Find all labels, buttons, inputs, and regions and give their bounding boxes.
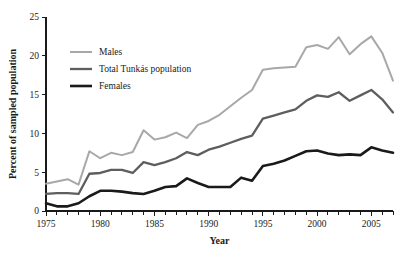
x-axis-title: Year bbox=[210, 235, 231, 246]
x-axis-tick-label: 1985 bbox=[145, 219, 164, 229]
x-axis-tick-label: 2000 bbox=[308, 219, 327, 229]
legend-label-3: Females bbox=[99, 81, 131, 91]
x-axis-tick-label: 1975 bbox=[37, 219, 56, 229]
legend-label-1: Males bbox=[99, 47, 123, 57]
y-axis-tick-label: 25 bbox=[30, 12, 40, 22]
y-axis-tick-label: 5 bbox=[34, 168, 39, 178]
x-axis-tick-label: 1995 bbox=[253, 219, 272, 229]
y-axis-tick-label: 10 bbox=[30, 129, 40, 139]
y-axis-tick-label: 15 bbox=[30, 90, 40, 100]
y-axis-tick-label: 20 bbox=[30, 51, 40, 61]
y-axis-title: Percent of sampled population bbox=[7, 49, 18, 180]
caption-sliver bbox=[30, 0, 370, 3]
x-axis-tick-label: 1990 bbox=[199, 219, 218, 229]
figure-container: 05101520251975198019851990199520002005Ye… bbox=[0, 0, 411, 265]
series-line-total-tunk-s-population bbox=[46, 90, 393, 194]
legend-label-2: Total Tunkás population bbox=[99, 64, 191, 74]
line-chart: 05101520251975198019851990199520002005Ye… bbox=[0, 0, 411, 265]
series-line-males bbox=[46, 36, 393, 184]
x-axis-tick-label: 1980 bbox=[91, 219, 110, 229]
y-axis-tick-label: 0 bbox=[34, 206, 39, 216]
x-axis-tick-label: 2005 bbox=[362, 219, 381, 229]
